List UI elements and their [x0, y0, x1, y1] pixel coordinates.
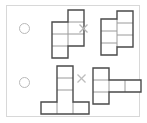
x-multiply-icon-row-2	[76, 73, 87, 84]
x-multiply-icon-row-1	[78, 23, 89, 34]
separator-label-row-1: ×	[7, 6, 8, 7]
shape-row-1-left[interactable]	[51, 10, 85, 60]
radio-circle-empty-icon-row-2[interactable]	[19, 77, 30, 88]
puzzle-panel: ×	[0, 0, 147, 123]
shape-row-1-right-label	[7, 6, 8, 7]
shape-row-2-right[interactable]	[92, 68, 144, 108]
shape-row-2-right-label	[7, 61, 8, 62]
radio-label-row-1	[7, 6, 8, 7]
option-row-2[interactable]: ×	[7, 61, 141, 117]
shape-row-1-left-label	[7, 6, 8, 7]
separator-label-row-2: ×	[7, 61, 8, 62]
shape-row-1-right[interactable]	[100, 11, 134, 61]
shape-row-2-left-label	[7, 61, 8, 62]
shape-row-2-left[interactable]	[41, 64, 89, 116]
radio-label-row-2	[7, 61, 8, 62]
option-row-1[interactable]: ×	[7, 6, 141, 62]
radio-circle-empty-icon-row-1[interactable]	[19, 23, 30, 34]
panel-frame: ×	[6, 5, 140, 117]
